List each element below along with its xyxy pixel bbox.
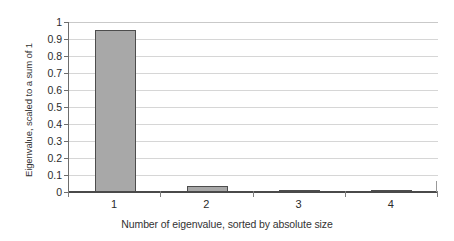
x-tick-label: 2 [186,197,226,211]
x-tick-mark [160,191,161,197]
y-tick-mark [64,90,69,91]
y-tick-label: 0.8 [36,50,62,62]
x-tick-label: 4 [371,197,411,211]
y-tick-label: 1 [36,16,62,28]
y-tick-mark [64,107,69,108]
y-tick-label: 0.4 [36,118,62,130]
y-tick-mark [64,175,69,176]
x-tick-label: 3 [279,197,319,211]
gridline [69,22,438,23]
y-tick-label: 0.1 [36,169,62,181]
plot-area [68,22,438,192]
y-tick-label: 0 [36,186,62,198]
y-tick-mark [64,39,69,40]
y-tick-label: 0.5 [36,101,62,113]
y-tick-label: 0.2 [36,152,62,164]
y-axis-tick-labels: 00.10.20.30.40.50.60.70.80.91 [36,22,62,192]
eigenvalue-scree-chart: Eigenvalue, scaled to a sum of 1 00.10.2… [0,0,454,241]
y-axis-title: Eigenvalue, scaled to a sum of 1 [22,15,36,205]
y-tick-label: 0.6 [36,84,62,96]
y-tick-mark [64,22,69,23]
y-tick-mark [64,73,69,74]
x-tick-mark [253,191,254,197]
y-tick-mark [64,56,69,57]
y-tick-label: 0.9 [36,33,62,45]
y-tick-label: 0.7 [36,67,62,79]
x-tick-mark [437,191,438,197]
x-tick-mark [345,191,346,197]
y-tick-label: 0.3 [36,135,62,147]
y-tick-mark [64,141,69,142]
y-tick-mark [64,124,69,125]
x-tick-mark [68,191,69,197]
y-tick-mark [64,158,69,159]
bar-1[interactable] [95,30,136,192]
x-tick-label: 1 [94,197,134,211]
x-axis-title: Number of eigenvalue, sorted by absolute… [0,218,454,230]
